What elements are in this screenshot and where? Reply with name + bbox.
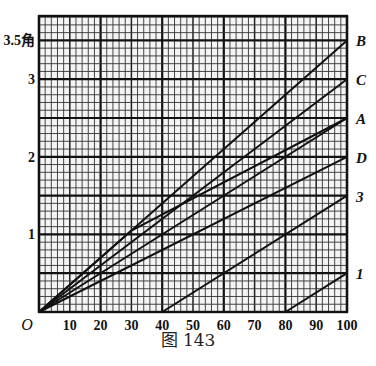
grid-chart: BCAD311020304050607080901001233.5角O	[0, 0, 376, 330]
series-label-C: C	[356, 72, 367, 88]
y-tick-label: 3	[28, 72, 35, 87]
series-label-A: A	[355, 111, 366, 127]
y-tick-label: 1	[28, 227, 35, 242]
series-label-1: 1	[356, 266, 364, 282]
series-label-B: B	[355, 33, 366, 49]
y-tick-label: 3.5角	[4, 32, 36, 48]
figure-caption: 图 143	[0, 326, 376, 351]
series-label-D: D	[355, 150, 367, 166]
y-tick-label: 2	[28, 150, 35, 165]
series-label-3: 3	[355, 189, 364, 205]
